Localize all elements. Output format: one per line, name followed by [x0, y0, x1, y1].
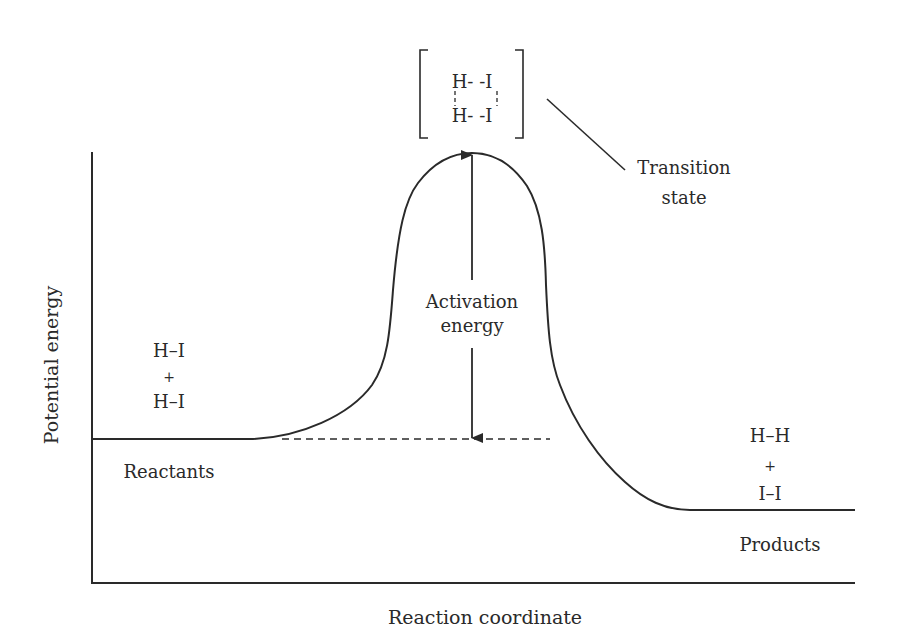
- reactants-label: Reactants: [123, 461, 214, 482]
- product-molecule-2: I–I: [758, 483, 781, 504]
- transition-state-structure: H- -I H- -I: [420, 50, 523, 138]
- activation-energy-label-line1: Activation: [425, 291, 519, 312]
- reactant-molecule-2: H–I: [153, 391, 185, 412]
- activation-energy-label-line2: energy: [440, 315, 504, 336]
- ts-structure-bottom: H- -I: [452, 105, 493, 126]
- y-axis-label: Potential energy: [40, 286, 62, 445]
- products-label: Products: [739, 534, 820, 555]
- reactant-plus-sign: +: [163, 369, 175, 385]
- left-bracket: [420, 50, 428, 138]
- ts-structure-top: H- -I: [452, 71, 493, 92]
- transition-state-label-line2: state: [661, 187, 706, 208]
- right-bracket: [515, 50, 523, 138]
- transition-state-label-line1: Transition: [637, 157, 731, 178]
- reactant-molecule-1: H–I: [153, 340, 185, 361]
- transition-state-leader-line: [547, 99, 625, 170]
- product-molecule-1: H–H: [750, 425, 790, 446]
- energy-profile-diagram: Activation energy H- -I H- -I Transition…: [0, 0, 898, 633]
- x-axis-label: Reaction coordinate: [388, 606, 582, 628]
- product-plus-sign: +: [764, 458, 776, 474]
